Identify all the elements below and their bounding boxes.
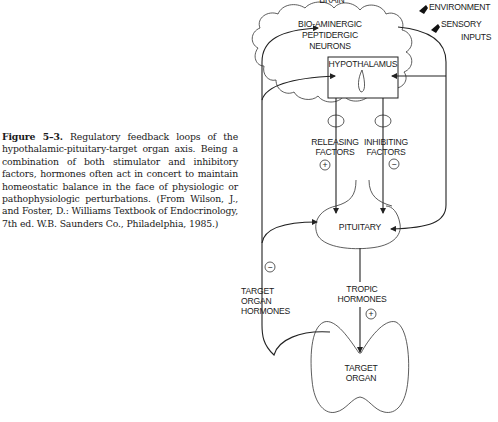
inhibiting-label-1: INHIBITING: [364, 137, 408, 147]
environment-arrow-icon: [419, 5, 428, 14]
releasing-label-1: RELEASING: [311, 137, 359, 147]
right-feedback-line[interactable]: [391, 27, 446, 229]
pituitary-stalk-right: [369, 180, 392, 206]
releasing-sign: +: [323, 160, 328, 170]
releasing-label-2: FACTORS: [315, 147, 354, 157]
environment-label: ENVIRONMENT: [429, 2, 491, 12]
tropic-label-1: TROPIC: [346, 284, 377, 294]
feedback-diagram: BRAIN BIO-AMINERGIC PEPTIDERGIC NEURONS …: [0, 0, 498, 422]
pituitary-label: PITUITARY: [339, 222, 382, 232]
neurons-label-3: NEURONS: [309, 41, 351, 51]
target-organ-label-2: ORGAN: [346, 373, 377, 383]
target-hormones-label-2: ORGAN: [241, 296, 272, 306]
target-hormones-sign: −: [268, 262, 273, 272]
sensory-label-2: INPUTS: [461, 32, 492, 42]
left-to-hypothalamus-arrow[interactable]: [262, 76, 335, 100]
target-organ-label-1: TARGET: [344, 363, 378, 373]
neurons-label-2: PEPTIDERGIC: [302, 30, 358, 40]
inhibiting-sign: −: [392, 159, 397, 169]
sensory-arrow-icon: [431, 24, 440, 33]
brain-label: BRAIN: [319, 0, 344, 5]
target-hormones-label-1: TARGET: [241, 286, 275, 296]
sensory-label-1: SENSORY: [441, 19, 482, 29]
hypothalamus-label: HYPOTHALAMUS: [329, 59, 398, 69]
left-to-pituitary-arrow[interactable]: [262, 222, 317, 243]
target-hormones-label-3: HORMONES: [241, 306, 290, 316]
inhibiting-label-2: FACTORS: [366, 147, 405, 157]
tropic-sign: +: [369, 309, 374, 319]
neurons-label-1: BIO-AMINERGIC: [298, 19, 362, 29]
tropic-label-2: HORMONES: [337, 294, 386, 304]
pituitary-stalk: [336, 180, 356, 206]
